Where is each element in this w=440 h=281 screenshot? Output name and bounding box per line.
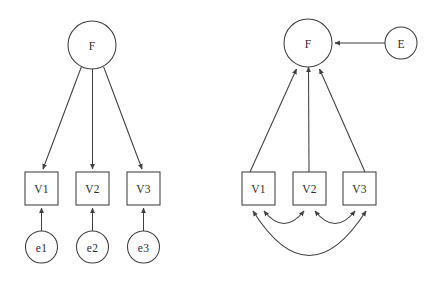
node-error-e1: e1 xyxy=(26,231,58,263)
error-e1-label: e1 xyxy=(36,242,47,254)
indicator-v3-left-label: V3 xyxy=(136,183,151,195)
factor-f-left-label: F xyxy=(89,40,96,52)
disturbance-e-label: E xyxy=(397,38,404,50)
indicator-v1-left-label: V1 xyxy=(34,183,49,195)
node-disturbance-e: E xyxy=(385,27,417,59)
path-diagram-figure: F V1 V2 V3 e1 e2 xyxy=(0,0,440,281)
indicator-v1-right-label: V1 xyxy=(251,183,266,195)
error-e2-label: e2 xyxy=(87,242,98,254)
node-indicator-v1-right: V1 xyxy=(242,172,275,205)
node-indicator-v3-left: V3 xyxy=(127,172,160,205)
path-diagram-canvas: F V1 V2 V3 e1 e2 xyxy=(0,0,440,281)
indicator-v3-right-label: V3 xyxy=(352,183,367,195)
node-error-e3: e3 xyxy=(128,231,160,263)
factor-f-right-label: F xyxy=(305,38,312,50)
node-indicator-v2-right: V2 xyxy=(293,172,326,205)
indicator-v2-right-label: V2 xyxy=(302,183,317,195)
node-error-e2: e2 xyxy=(77,231,109,263)
indicator-v2-left-label: V2 xyxy=(85,183,100,195)
node-indicator-v2-left: V2 xyxy=(76,172,109,205)
error-e3-label: e3 xyxy=(138,242,149,254)
edge-v2-to-factor xyxy=(309,67,310,172)
figure-background xyxy=(0,0,440,281)
node-indicator-v3-right: V3 xyxy=(343,172,376,205)
node-factor-f-right: F xyxy=(284,19,332,67)
node-indicator-v1-left: V1 xyxy=(25,172,58,205)
node-factor-f-left: F xyxy=(68,21,116,69)
